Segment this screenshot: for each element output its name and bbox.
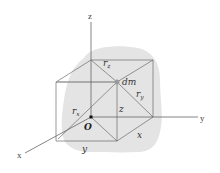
x-coordinate-label: x <box>137 130 142 140</box>
moment-of-inertia-diagram: z y x O dm rz ry rx z x y <box>0 0 220 173</box>
z-coordinate-label: z <box>118 104 124 114</box>
origin-point <box>90 116 93 119</box>
dm-label: dm <box>122 77 136 87</box>
y-coordinate-label: y <box>81 144 88 154</box>
origin-label: O <box>84 122 92 132</box>
mass-element-point <box>115 80 120 85</box>
x-axis-label: x <box>17 150 22 160</box>
z-axis-label: z <box>88 11 92 21</box>
y-axis-label: y <box>200 113 205 123</box>
